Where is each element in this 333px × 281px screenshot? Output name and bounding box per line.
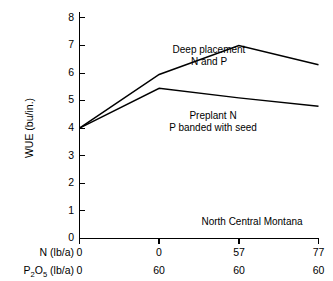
series-label-deep-placement-line2: N and P (191, 56, 227, 67)
x-tick-label-p-2: 60 (233, 264, 245, 276)
series-label-deep-placement-line1: Deep placement (173, 44, 246, 55)
y-tick-label-6: 6 (68, 66, 74, 78)
x-tick-label-p-3: 60 (313, 264, 325, 276)
y-tick-label-5: 5 (68, 93, 74, 105)
series-label-preplant-line1: Preplant N (189, 110, 236, 121)
y-axis-title: WUE (bu/in.) (23, 98, 35, 158)
y-tick-label-8: 8 (68, 11, 74, 23)
y-tick-label-7: 7 (68, 38, 74, 50)
y-tick-label-0: 0 (68, 231, 74, 243)
p2o5-p: P (24, 264, 31, 276)
y-tick-label-3: 3 (68, 149, 74, 161)
svg-text:WUE (bu/in.): WUE (bu/in.) (23, 98, 35, 158)
y-tick-label-2: 2 (68, 176, 74, 188)
wue-line-chart: 0 1 2 3 4 5 6 7 8 WUE (bu/in.) N (lb/a) … (0, 0, 333, 281)
x-tick-label-n-1: 0 (156, 246, 162, 258)
x-tick-label-p-1: 60 (153, 264, 165, 276)
series-label-preplant-line2: P banded with seed (169, 122, 257, 133)
x-axis-ticks (80, 239, 319, 245)
p2o5-units: (lb/a) (47, 264, 74, 276)
y-tick-label-1: 1 (68, 204, 74, 216)
x-axis-row-label-n: N (lb/a) (40, 246, 74, 258)
p2o5-o: O (35, 264, 43, 276)
y-tick-label-4: 4 (68, 121, 74, 133)
x-axis-row-label-p2o5: P2O5 (lb/a) (24, 264, 75, 279)
chart-canvas: 0 1 2 3 4 5 6 7 8 WUE (bu/in.) N (lb/a) … (0, 0, 333, 281)
region-annotation-label: North Central Montana (201, 216, 303, 227)
x-tick-label-n-3: 77 (313, 246, 325, 258)
x-tick-label-n-0: 0 (77, 246, 83, 258)
x-tick-label-p-0: 0 (77, 264, 83, 276)
x-tick-label-n-2: 57 (233, 246, 245, 258)
